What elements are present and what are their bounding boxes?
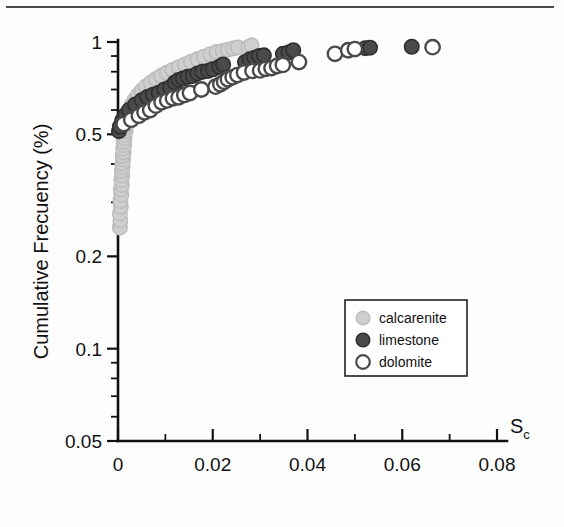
- y-tick-label: 0.05: [65, 431, 102, 452]
- data-point-dolomite: [348, 42, 362, 56]
- data-point-dolomite: [194, 82, 208, 96]
- data-point-limestone: [216, 57, 230, 71]
- y-tick-label: 0.2: [76, 246, 102, 267]
- x-tick-label: 0.08: [479, 454, 516, 475]
- chart-legend: calcarenitelimestonedolomite: [345, 300, 467, 376]
- x-tick-label: 0.04: [289, 454, 326, 475]
- data-point-dolomite: [425, 40, 439, 54]
- data-point-limestone: [405, 40, 419, 54]
- figure-root: 10.50.20.10.0500.020.040.060.08Cumulativ…: [0, 0, 564, 527]
- legend-marker-limestone: [356, 333, 370, 347]
- scatter-plot-canvas: 10.50.20.10.0500.020.040.060.08Cumulativ…: [0, 0, 564, 527]
- data-point-dolomite: [276, 58, 290, 72]
- y-tick-label: 0.1: [76, 339, 102, 360]
- legend-label-calcarenite: calcarenite: [379, 310, 447, 326]
- legend-marker-dolomite: [356, 355, 370, 369]
- x-tick-label: 0: [113, 454, 124, 475]
- data-point-limestone: [363, 41, 377, 55]
- legend-label-limestone: limestone: [379, 332, 439, 348]
- y-tick-label: 1: [91, 32, 102, 53]
- y-axis-title: Cumulative Frecuency (%): [30, 124, 52, 360]
- legend-label-dolomite: dolomite: [379, 354, 432, 370]
- series-limestone: [112, 40, 419, 139]
- y-tick-label: 0.5: [76, 124, 102, 145]
- legend-marker-calcarenite: [356, 311, 370, 325]
- data-point-dolomite: [292, 55, 306, 69]
- x-tick-label: 0.06: [384, 454, 421, 475]
- x-axis-title: Sc: [510, 415, 530, 442]
- x-tick-label: 0.02: [194, 454, 231, 475]
